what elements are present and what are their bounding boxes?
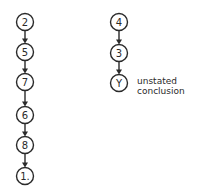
node-label: 5 [22, 47, 28, 58]
node-right-2: Y [111, 75, 128, 92]
node-left-4: 8 [17, 137, 34, 154]
argument-diagram: 257681.43Y [0, 0, 201, 195]
node-right-0: 4 [111, 14, 128, 31]
node-label: 8 [22, 140, 28, 151]
node-label: 3 [116, 48, 122, 59]
node-left-3: 6 [17, 107, 34, 124]
node-label: 1. [20, 171, 30, 182]
node-label: 2 [22, 17, 28, 28]
node-label: 6 [22, 110, 28, 121]
edges [22, 31, 122, 168]
node-label: Y [115, 78, 123, 89]
nodes: 257681.43Y [17, 14, 128, 185]
node-right-1: 3 [111, 45, 128, 62]
arrow-down-icon [22, 154, 28, 168]
annotation-line-1: unstated [137, 76, 185, 86]
annotation-line-2: conclusion [137, 86, 185, 96]
node-left-0: 2 [17, 14, 34, 31]
arrow-down-icon [22, 91, 28, 107]
arrow-down-icon [22, 61, 28, 74]
node-left-2: 7 [17, 74, 34, 91]
node-label: 4 [116, 17, 122, 28]
arrow-down-icon [22, 31, 28, 44]
node-left-1: 5 [17, 44, 34, 61]
node-label: 7 [22, 77, 28, 88]
arrow-down-icon [116, 62, 122, 75]
node-left-5: 1. [17, 168, 34, 185]
arrow-down-icon [22, 124, 28, 137]
unstated-conclusion-note: unstated conclusion [137, 76, 185, 96]
arrow-down-icon [116, 31, 122, 45]
